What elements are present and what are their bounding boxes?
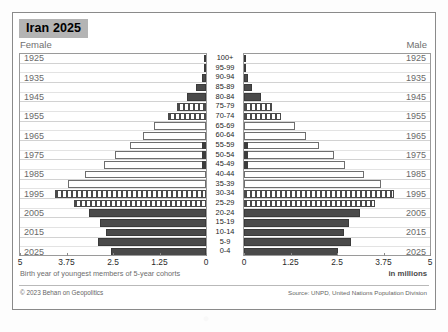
page-title: Iran 2025 bbox=[19, 19, 88, 38]
age-group-label-15-19: 15-19 bbox=[207, 217, 243, 226]
pyramid-bar-female-65-69 bbox=[154, 122, 206, 130]
age-group-label-40-44: 40-44 bbox=[207, 169, 243, 178]
age-group-label-60-64: 60-64 bbox=[207, 130, 243, 139]
bar-row bbox=[20, 199, 206, 209]
birthyear-label-1955: 1955 bbox=[406, 112, 426, 121]
pyramid-bar-female-100+ bbox=[204, 55, 206, 63]
age-group-label-65-69: 65-69 bbox=[207, 121, 243, 130]
birthyear-label-2025: 2025 bbox=[406, 248, 426, 256]
age-group-label-70-74: 70-74 bbox=[207, 111, 243, 120]
bar-cap-segment bbox=[202, 161, 206, 169]
birthyear-label-2015: 2015 bbox=[24, 228, 44, 237]
bar-row bbox=[244, 199, 430, 209]
axis-tick-5: 5 bbox=[428, 257, 433, 267]
pyramid-bar-male-5-9 bbox=[244, 238, 351, 246]
birthyear-label-1955: 1955 bbox=[24, 112, 44, 121]
age-group-label-100+: 100+ bbox=[207, 53, 243, 62]
pyramid-bar-female-90-94 bbox=[202, 74, 206, 82]
age-group-label-90-94: 90-94 bbox=[207, 72, 243, 81]
age-group-label-45-49: 45-49 bbox=[207, 159, 243, 168]
age-group-label-30-34: 30-34 bbox=[207, 188, 243, 197]
birthyear-label-2025: 2025 bbox=[24, 248, 44, 256]
pyramid-bar-male-65-69 bbox=[244, 122, 295, 130]
birthyear-label-2015: 2015 bbox=[406, 228, 426, 237]
bar-row bbox=[20, 180, 206, 190]
pyramid-bar-male-85-89 bbox=[244, 84, 252, 92]
age-group-label-20-24: 20-24 bbox=[207, 208, 243, 217]
bar-row bbox=[244, 64, 430, 74]
bar-row bbox=[244, 122, 430, 132]
bar-row bbox=[244, 112, 430, 122]
age-group-label-80-84: 80-84 bbox=[207, 92, 243, 101]
bar-row bbox=[20, 209, 206, 219]
pyramid-bar-male-55-59 bbox=[244, 142, 319, 150]
axis-tick-0: 0 bbox=[204, 257, 209, 267]
pyramid-bar-male-30-34 bbox=[244, 190, 394, 198]
age-group-label-95-99: 95-99 bbox=[207, 63, 243, 72]
axis-tickmark bbox=[291, 253, 292, 256]
pyramid-bar-female-50-54 bbox=[115, 151, 206, 159]
bar-row bbox=[244, 228, 430, 238]
bar-row bbox=[244, 160, 430, 170]
pyramid-bar-male-95-99 bbox=[244, 64, 246, 72]
pyramid-bar-female-40-44 bbox=[85, 171, 206, 179]
pyramid-bar-female-80-84 bbox=[187, 93, 206, 101]
birthyear-label-1965: 1965 bbox=[24, 132, 44, 141]
chart-card: Iran 2025 Female Male 192519351945195519… bbox=[12, 12, 436, 310]
pyramid-bar-male-70-74 bbox=[244, 113, 281, 121]
bar-row bbox=[20, 238, 206, 248]
bar-row bbox=[20, 218, 206, 228]
pyramid-bar-female-45-49 bbox=[104, 161, 206, 169]
pyramid-bar-female-30-34 bbox=[55, 190, 206, 198]
age-group-label-50-54: 50-54 bbox=[207, 150, 243, 159]
axis-tick-1.25: 1.25 bbox=[151, 257, 167, 267]
pyramid-bar-male-35-39 bbox=[244, 180, 381, 188]
axis-tickmark bbox=[384, 253, 385, 256]
bar-row bbox=[244, 54, 430, 64]
bar-cap-segment bbox=[202, 142, 206, 150]
bar-row bbox=[244, 170, 430, 180]
pyramid-bar-female-95-99 bbox=[204, 64, 206, 72]
female-plot-area: 1925193519451955196519751985199520052015… bbox=[19, 53, 207, 256]
bar-row bbox=[20, 83, 206, 93]
axis-tick-1.25: 1.25 bbox=[282, 257, 298, 267]
bar-row bbox=[244, 73, 430, 83]
bar-row bbox=[20, 151, 206, 161]
axis-tick-5: 5 bbox=[18, 257, 23, 267]
axis-tick-2.5: 2.5 bbox=[331, 257, 343, 267]
birthyear-label-1925: 1925 bbox=[406, 54, 426, 63]
birthyear-label-1975: 1975 bbox=[24, 151, 44, 160]
axis-tickmark bbox=[337, 253, 338, 256]
bar-row bbox=[20, 73, 206, 83]
age-group-label-35-39: 35-39 bbox=[207, 179, 243, 188]
age-group-label-25-29: 25-29 bbox=[207, 198, 243, 207]
bar-row bbox=[244, 102, 430, 112]
bar-row bbox=[20, 54, 206, 64]
bar-cap-segment bbox=[244, 151, 248, 159]
age-group-axis: 100+95-9990-9485-8980-8475-7970-7465-696… bbox=[207, 53, 243, 256]
bar-row bbox=[20, 112, 206, 122]
pyramid-bar-male-45-49 bbox=[244, 161, 345, 169]
age-group-label-5-9: 5-9 bbox=[207, 237, 243, 246]
bar-row bbox=[20, 64, 206, 74]
axis-tickmark bbox=[67, 253, 68, 256]
female-caption: Female bbox=[20, 39, 52, 50]
bar-row bbox=[244, 141, 430, 151]
axis-tickmark bbox=[20, 253, 21, 256]
bar-row bbox=[20, 160, 206, 170]
birthyear-label-1945: 1945 bbox=[24, 93, 44, 102]
pyramid-bar-female-70-74 bbox=[168, 113, 206, 121]
axis-tickmark bbox=[430, 253, 431, 256]
source-text: Source: UNPD, United Nations Population … bbox=[288, 289, 427, 296]
pyramid-bar-male-100+ bbox=[244, 55, 246, 63]
birthyear-label-1945: 1945 bbox=[406, 93, 426, 102]
pyramid-bar-female-20-24 bbox=[89, 209, 206, 217]
birthyear-label-2005: 2005 bbox=[406, 209, 426, 218]
units-label: in millions bbox=[388, 269, 427, 278]
pyramid-bar-male-90-94 bbox=[244, 74, 248, 82]
axis-tickmark bbox=[160, 253, 161, 256]
axis-tick-3.75: 3.75 bbox=[375, 257, 391, 267]
pyramid-bar-female-55-59 bbox=[130, 142, 206, 150]
axis-tick-3.75: 3.75 bbox=[58, 257, 74, 267]
axis-tickmark bbox=[206, 253, 207, 256]
